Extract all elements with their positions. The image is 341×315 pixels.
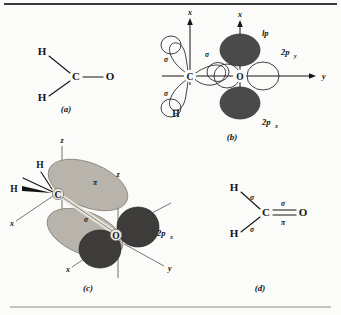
panel-b-x-axis-oxygen-label: x xyxy=(237,10,242,19)
panel-c-2px-subscript: x xyxy=(169,234,173,240)
panel-c-2px-label: 2p xyxy=(156,228,166,238)
panel-c-y-axis-oxygen-label: y xyxy=(167,264,172,273)
formaldehyde-bonding-figure: H H C O (a) x x y σ xyxy=(0,0,341,315)
panel-c-caption: (c) xyxy=(83,283,93,293)
figure-container: H H C O (a) x x y σ xyxy=(0,0,341,315)
panel-c-carbon-label: C xyxy=(55,190,62,200)
panel-b-hydrogen-label: H xyxy=(172,109,180,119)
panel-a-hydrogen-top-label: H xyxy=(38,45,47,57)
panel-b-2py-subscript: y xyxy=(293,53,297,59)
panel-a-oxygen-label: O xyxy=(106,70,115,82)
panel-b-oxygen-2py-lobe-right xyxy=(247,62,279,90)
panel-b-x-axis-carbon-label: x xyxy=(187,8,192,17)
panel-a-caption: (a) xyxy=(61,104,72,114)
panel-c-x-axis-oxygen-label: x xyxy=(65,265,70,274)
panel-d-hydrogen-bottom-label: H xyxy=(230,227,239,239)
panel-b-2px-label: 2p xyxy=(261,117,271,127)
panel-d-caption: (d) xyxy=(255,283,266,293)
panel-b-lone-pair-label: lp xyxy=(262,28,269,38)
panel-d-oxygen-label: O xyxy=(299,206,308,218)
panel-a-hydrogen-bottom-label: H xyxy=(38,91,47,103)
panel-b-oxygen-lone-pair-lobe xyxy=(220,34,260,66)
panel-c-oxygen-label: O xyxy=(112,231,119,241)
panel-a-carbon-label: C xyxy=(72,70,80,82)
panel-b-oxygen-label: O xyxy=(236,72,243,82)
panel-c-hydrogen-wedge-label: H xyxy=(10,184,18,194)
panel-c-x-axis-carbon-label: x xyxy=(9,219,14,228)
panel-d-carbon-label: C xyxy=(262,206,270,218)
panel-b-y-axis-label: y xyxy=(321,72,326,81)
panel-b-oxygen-2px-lobe xyxy=(220,87,260,119)
panel-b-2py-label: 2p xyxy=(280,47,290,57)
panel-d-hydrogen-top-label: H xyxy=(230,181,239,193)
panel-b-2px-subscript: x xyxy=(274,123,278,129)
panel-b-carbon-label: C xyxy=(187,72,194,82)
panel-c-hydrogen-upper-label: H xyxy=(36,160,44,170)
panel-b-caption: (b) xyxy=(227,132,238,142)
